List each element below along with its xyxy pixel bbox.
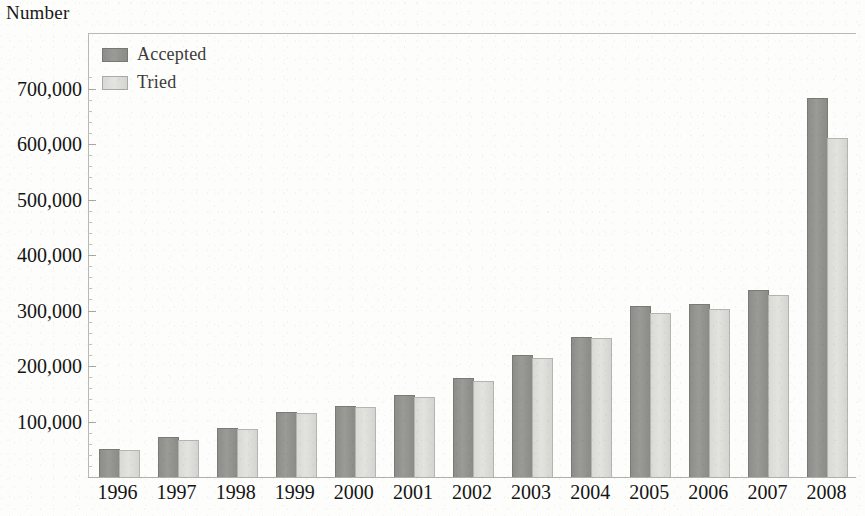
bar-tried-1997 [178,440,199,477]
legend-label-tried: Tried [137,72,176,93]
y-axis-tick-label: 700,000 [17,79,82,99]
bar-accepted-2005 [630,306,651,477]
bar-chart: Number 100,000200,000300,000400,000500,0… [0,0,865,516]
x-axis-tick-label: 2006 [679,482,738,502]
y-axis-tick-label: 600,000 [17,134,82,154]
bar-group [630,33,671,477]
y-axis-ticks: 100,000200,000300,000400,000500,000600,0… [0,0,82,516]
bar-tried-2001 [414,397,435,477]
bar-group [512,33,553,477]
x-axis-tick-label: 2008 [797,482,856,502]
bar-group [335,33,376,477]
y-axis-tick-label: 500,000 [17,190,82,210]
bar-tried-2005 [650,313,671,477]
bar-tried-2000 [355,407,376,477]
x-axis-tick-label: 2004 [561,482,620,502]
bar-accepted-1997 [158,437,179,477]
bar-accepted-1999 [276,412,297,477]
x-axis-tick-label: 2002 [442,482,501,502]
dark-gray-swatch-icon [102,48,128,62]
x-axis-tick-label: 1996 [88,482,147,502]
y-axis-tick-label: 200,000 [17,356,82,376]
bar-accepted-1996 [99,449,120,477]
x-axis-tick-label: 2003 [502,482,561,502]
legend-item-accepted: Accepted [102,44,207,65]
bar-group [217,33,258,477]
bar-tried-2004 [591,338,612,477]
light-gray-swatch-icon [102,76,128,90]
bar-accepted-2004 [571,337,592,477]
bar-accepted-2000 [335,406,356,477]
bar-accepted-1998 [217,428,238,477]
x-axis-tick-label: 2005 [620,482,679,502]
bar-accepted-2003 [512,355,533,477]
bar-accepted-2002 [453,378,474,477]
x-axis-tick-label: 1999 [265,482,324,502]
x-axis-tick-label: 1997 [147,482,206,502]
y-axis-tick-label: 300,000 [17,301,82,321]
bar-group [276,33,317,477]
x-axis-baseline [88,477,856,478]
y-axis-tick-label: 100,000 [17,412,82,432]
bar-accepted-2001 [394,395,415,477]
bar-accepted-2006 [689,304,710,477]
bar-tried-1999 [296,413,317,477]
x-axis-tick-label: 1998 [206,482,265,502]
bar-group [453,33,494,477]
bar-accepted-2007 [748,290,769,477]
x-axis-tick-label: 2007 [738,482,797,502]
y-axis-tick-label: 400,000 [17,245,82,265]
legend-label-accepted: Accepted [137,44,207,65]
bar-group [158,33,199,477]
x-axis-tick-label: 2000 [324,482,383,502]
bar-group [394,33,435,477]
x-axis-tick-label: 2001 [383,482,442,502]
bar-accepted-2008 [807,98,828,477]
bar-tried-2008 [827,138,848,477]
bar-tried-1996 [119,450,140,477]
bar-group [689,33,730,477]
bar-group [571,33,612,477]
bar-tried-2003 [532,358,553,477]
bar-tried-1998 [237,429,258,477]
bar-group [807,33,848,477]
bar-tried-2006 [709,309,730,477]
bar-tried-2002 [473,381,494,477]
bars-layer [88,33,856,477]
legend-item-tried: Tried [102,72,207,93]
bar-group [99,33,140,477]
chart-legend: Accepted Tried [102,44,207,93]
bar-group [748,33,789,477]
bar-tried-2007 [768,295,789,477]
